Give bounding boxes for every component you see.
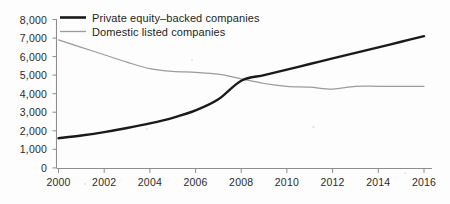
legend-label-domestic-listed: Domestic listed companies bbox=[92, 26, 226, 38]
y-tick-label: 1,000 bbox=[20, 143, 47, 155]
x-tick-label: 2006 bbox=[184, 176, 208, 188]
y-tick-label: 0 bbox=[41, 162, 47, 174]
x-tick-label: 2004 bbox=[138, 176, 162, 188]
y-tick-label: 4,000 bbox=[20, 88, 47, 100]
y-tick-label: 3,000 bbox=[20, 106, 47, 118]
chart-figure: 8,000 7,000 6,000 5,000 4,000 3,000 2,00… bbox=[0, 0, 450, 204]
y-tick-label: 8,000 bbox=[20, 14, 47, 26]
x-tick-label: 2008 bbox=[229, 176, 253, 188]
y-tick-label: 6,000 bbox=[20, 51, 47, 63]
x-tick-label: 2014 bbox=[366, 176, 390, 188]
y-tick-label: 2,000 bbox=[20, 125, 47, 137]
line-chart-canvas: 8,000 7,000 6,000 5,000 4,000 3,000 2,00… bbox=[0, 0, 450, 204]
y-tick-label: 7,000 bbox=[20, 32, 47, 44]
x-tick-label: 2000 bbox=[46, 176, 70, 188]
x-tick-label: 2010 bbox=[275, 176, 299, 188]
y-axis-ticks bbox=[53, 20, 57, 168]
x-tick-label: 2002 bbox=[92, 176, 116, 188]
y-tick-label: 5,000 bbox=[20, 69, 47, 81]
x-tick-label: 2012 bbox=[321, 176, 345, 188]
legend-label-private-equity-backed: Private equity–backed companies bbox=[92, 12, 260, 24]
x-axis-ticks bbox=[59, 169, 425, 174]
y-axis-tick-labels: 8,000 7,000 6,000 5,000 4,000 3,000 2,00… bbox=[20, 14, 47, 174]
chart-legend: Private equity–backed companies Domestic… bbox=[60, 12, 260, 38]
x-tick-label: 2016 bbox=[412, 176, 436, 188]
series-line-private-equity-backed bbox=[59, 36, 425, 138]
x-axis-tick-labels: 2000 2002 2004 2006 2008 2010 2012 2014 … bbox=[46, 176, 436, 188]
